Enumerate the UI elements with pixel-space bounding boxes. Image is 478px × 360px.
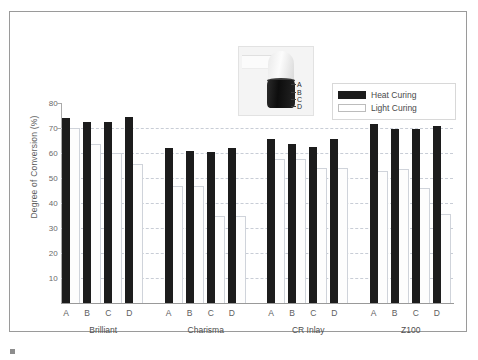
bar-heat-curing-charisma-c	[207, 152, 215, 303]
x-sub-label-brilliant-a: A	[63, 308, 69, 318]
x-sub-label-z100-c: C	[413, 308, 419, 318]
bar-heat-curing-brilliant-b	[83, 122, 91, 303]
caption-marker-icon	[10, 349, 15, 354]
x-sub-label-charisma-c: C	[208, 308, 214, 318]
bar-heat-curing-brilliant-c	[104, 122, 112, 303]
x-group-label-cr-inlay: CR Inlay	[292, 325, 325, 335]
bar-heat-curing-charisma-a	[165, 148, 173, 303]
x-sub-label-z100-a: A	[371, 308, 377, 318]
y-axis-ticks: 1020304050607080	[34, 103, 58, 303]
x-sub-label-charisma-d: D	[229, 308, 235, 318]
x-sub-label-cr-inlay-b: B	[289, 308, 295, 318]
depth-label-d: D	[297, 103, 302, 110]
bar-heat-curing-brilliant-a	[62, 118, 70, 303]
x-sub-label-z100-d: D	[434, 308, 440, 318]
legend-item-light-curing: Light Curing	[338, 102, 450, 114]
x-sub-label-brilliant-d: D	[126, 308, 132, 318]
y-tick-label-30: 30	[49, 224, 58, 233]
y-tick-mark-80	[57, 103, 61, 104]
x-sub-label-charisma-a: A	[166, 308, 172, 318]
plot-area	[61, 103, 453, 303]
figure-frame: Degree of Conversion (%) 102030405060708…	[9, 11, 467, 332]
bar-heat-curing-brilliant-d	[125, 117, 133, 303]
bar-heat-curing-cr-inlay-b	[288, 144, 296, 303]
y-tick-label-60: 60	[49, 149, 58, 158]
bar-heat-curing-charisma-b	[186, 151, 194, 304]
y-tick-label-50: 50	[49, 174, 58, 183]
y-tick-label-10: 10	[49, 274, 58, 283]
y-tick-label-40: 40	[49, 199, 58, 208]
legend-item-heat-curing: Heat Curing	[338, 89, 450, 101]
x-group-label-brilliant: Brilliant	[89, 325, 117, 335]
x-group-label-charisma: Charisma	[188, 325, 224, 335]
depth-label-a: A	[297, 81, 302, 88]
legend-label-light-curing: Light Curing	[371, 103, 417, 113]
bar-heat-curing-z100-a	[370, 124, 378, 303]
figure-caption	[10, 347, 18, 359]
y-tick-mark-70	[57, 128, 61, 129]
bar-heat-curing-cr-inlay-c	[309, 147, 317, 303]
depth-tick-d	[291, 106, 296, 107]
x-group-label-z100: Z100	[401, 325, 420, 335]
bar-heat-curing-z100-c	[412, 129, 420, 303]
y-tick-label-20: 20	[49, 249, 58, 258]
x-sub-label-charisma-b: B	[187, 308, 193, 318]
specimen-inset-image: A B C D	[238, 46, 314, 116]
depth-tick-a	[291, 84, 296, 85]
depth-label-b: B	[297, 89, 302, 96]
bar-heat-curing-z100-b	[391, 129, 399, 303]
bar-heat-curing-cr-inlay-a	[267, 139, 275, 303]
x-axis-line	[61, 303, 454, 304]
depth-tick-b	[291, 92, 296, 93]
bar-heat-curing-cr-inlay-d	[330, 139, 338, 303]
x-sub-label-cr-inlay-c: C	[310, 308, 316, 318]
legend-swatch-heat-curing	[338, 91, 366, 99]
legend-label-heat-curing: Heat Curing	[371, 90, 416, 100]
x-sub-label-cr-inlay-d: D	[331, 308, 337, 318]
x-sub-label-cr-inlay-a: A	[268, 308, 274, 318]
legend-swatch-light-curing	[338, 104, 366, 112]
chart-legend: Heat Curing Light Curing	[332, 83, 456, 120]
x-sub-label-brilliant-c: C	[105, 308, 111, 318]
bar-heat-curing-z100-d	[433, 126, 441, 304]
depth-label-c: C	[297, 96, 302, 103]
bar-heat-curing-charisma-d	[228, 148, 236, 303]
depth-tick-c	[291, 99, 296, 100]
x-sub-label-z100-b: B	[392, 308, 398, 318]
x-sub-label-brilliant-b: B	[84, 308, 90, 318]
